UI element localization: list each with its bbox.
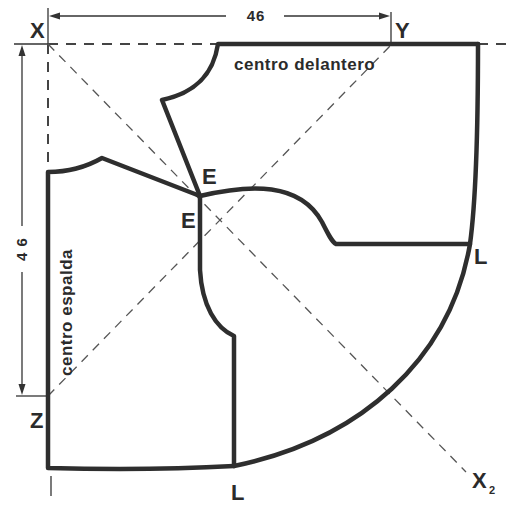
point-z-label: Z: [30, 408, 43, 433]
arrow-left-icon: [49, 13, 60, 20]
arrow-right-icon: [379, 13, 390, 20]
arrow-down-icon: [19, 384, 26, 395]
construction-lines: [48, 44, 510, 472]
point-l-bottom-label: L: [231, 480, 244, 505]
point-l-right-label: L: [474, 244, 487, 269]
arrow-up-icon: [19, 45, 26, 56]
point-e-back-label: E: [181, 208, 196, 233]
back-armhole-side: [200, 196, 234, 466]
point-e-front-label: E: [202, 164, 217, 189]
top-dimension-value: 46: [247, 7, 266, 24]
top-dimension: 46: [48, 7, 391, 44]
point-y-label: Y: [395, 18, 410, 43]
pattern-diagram: 46 4 6 X Y Z E E L L X 2 centro delanter…: [0, 0, 526, 511]
point-x2-label: X: [472, 468, 487, 493]
point-x2-subscript: 2: [489, 484, 495, 496]
left-dimension-value: 4 6: [13, 237, 30, 261]
point-x-label: X: [30, 18, 45, 43]
back-center-label: centro espalda: [57, 249, 76, 376]
front-piece-outline: [162, 44, 478, 244]
hem-arc: [234, 44, 478, 466]
left-dimension: 4 6: [13, 44, 48, 396]
diagonal-x-to-x2: [48, 44, 466, 472]
front-center-label: centro delantero: [234, 55, 375, 74]
